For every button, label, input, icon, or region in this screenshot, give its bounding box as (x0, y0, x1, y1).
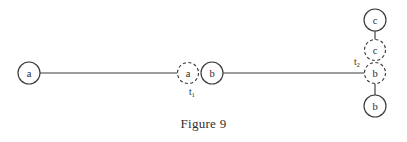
figure-caption: Figure 9 (0, 116, 407, 132)
node-a-dashed[interactable]: a (178, 63, 199, 84)
time-label-subscript: 2 (357, 61, 361, 68)
node-label: c (373, 15, 378, 26)
node-label: b (372, 68, 377, 79)
node-c-top[interactable]: c (364, 9, 386, 31)
node-b-dashed[interactable]: b (365, 63, 386, 84)
time-label-t2: t2 (354, 57, 361, 68)
node-label: a (27, 68, 32, 79)
time-label-subscript: 1 (192, 91, 195, 98)
figure-9-container: a a b c c b b (0, 0, 407, 142)
node-c-dashed[interactable]: c (365, 40, 386, 61)
node-b-middle[interactable]: b (201, 62, 223, 84)
node-label: b (372, 101, 377, 112)
node-label: a (186, 68, 191, 79)
time-label-t1: t1 (189, 87, 195, 98)
node-label: b (209, 68, 214, 79)
node-a-left[interactable]: a (18, 62, 40, 84)
node-b-bottom[interactable]: b (364, 95, 386, 117)
node-label: c (373, 45, 378, 56)
